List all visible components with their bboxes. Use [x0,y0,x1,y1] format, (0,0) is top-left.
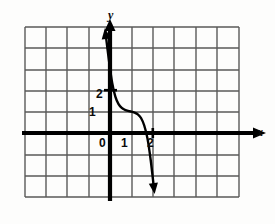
axis-label-y: y [108,9,113,21]
coordinate-plane-svg [0,0,275,224]
tick-label-origin: 0 [99,137,106,149]
tick-label-x-1: 1 [121,137,128,149]
tick-label-y-1: 1 [89,106,96,118]
axes [22,19,266,201]
axis-label-x: x [257,126,263,138]
tick-label-x-2: 2 [147,137,154,149]
graph-figure: 0 1 2 1 2 x y [0,0,275,224]
tick-label-y-2: 2 [96,88,103,100]
